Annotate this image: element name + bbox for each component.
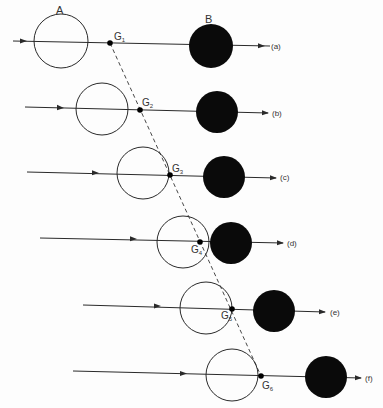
svg-text:(f): (f) — [365, 374, 373, 383]
row-b: G2 (b) — [25, 83, 282, 135]
row-a: A B G1 (a) — [13, 4, 281, 68]
label-a: A — [56, 4, 64, 16]
svg-text:G2: G2 — [142, 97, 154, 109]
row-d: G4 (d) — [40, 216, 297, 268]
svg-text:G3: G3 — [172, 163, 184, 175]
object-b — [253, 290, 295, 332]
row-tag: (a) — [271, 42, 281, 51]
object-a — [117, 147, 169, 199]
centre-of-mass-point — [107, 40, 113, 46]
object-b — [196, 91, 238, 133]
row-f: G6 (f) — [73, 349, 373, 401]
label-b: B — [205, 13, 212, 25]
svg-text:(e): (e) — [330, 308, 340, 317]
arrow-icon — [20, 39, 27, 44]
row-c: G3 (c) — [27, 147, 290, 199]
svg-text:(c): (c) — [280, 173, 290, 182]
svg-text:G4: G4 — [191, 244, 203, 256]
object-b — [210, 222, 252, 264]
row-e: G5 (e) — [83, 282, 340, 334]
svg-text:G5: G5 — [221, 310, 233, 322]
svg-text:G6: G6 — [262, 380, 274, 392]
collision-diagram: A B G1 (a) G2 (b) G3 (c) G4 (d) — [0, 0, 383, 408]
object-a — [34, 14, 88, 68]
object-b — [203, 156, 245, 198]
object-b — [305, 356, 347, 398]
svg-text:(d): (d) — [287, 239, 297, 248]
centre-of-mass-path — [110, 43, 261, 376]
svg-text:G1: G1 — [114, 31, 126, 43]
object-b — [189, 24, 233, 68]
arrow-icon — [258, 43, 265, 48]
svg-text:(b): (b) — [272, 109, 282, 118]
